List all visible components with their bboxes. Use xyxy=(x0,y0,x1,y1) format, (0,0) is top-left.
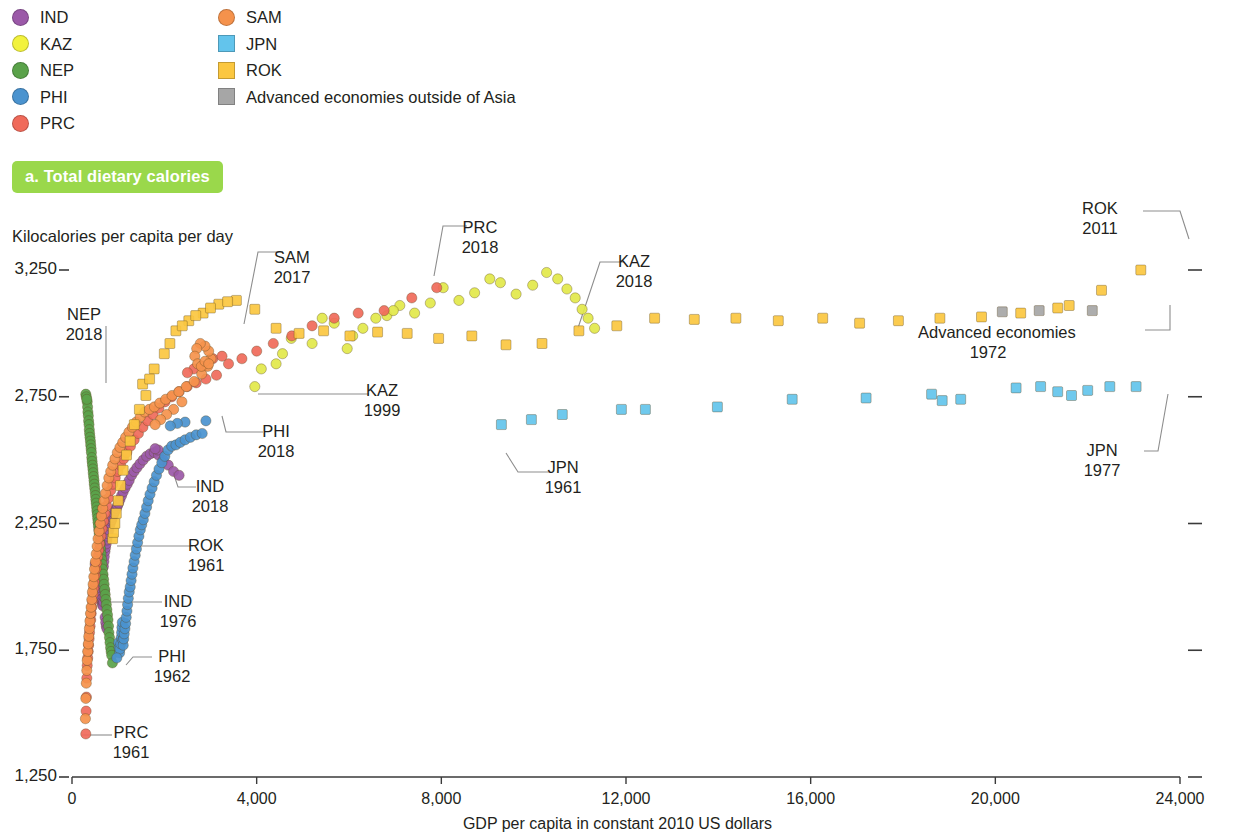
data-point[interactable] xyxy=(557,410,567,420)
data-point[interactable] xyxy=(937,396,947,406)
data-point[interactable] xyxy=(165,339,175,349)
data-point[interactable] xyxy=(454,295,464,305)
data-point[interactable] xyxy=(583,313,593,323)
data-point[interactable] xyxy=(342,344,352,354)
data-point[interactable] xyxy=(574,326,584,336)
data-point[interactable] xyxy=(855,318,865,328)
data-point[interactable] xyxy=(467,331,477,341)
data-point[interactable] xyxy=(294,328,304,338)
data-point[interactable] xyxy=(329,313,339,323)
data-point[interactable] xyxy=(470,288,480,298)
data-point[interactable] xyxy=(110,519,120,529)
data-point[interactable] xyxy=(134,404,144,414)
data-point[interactable] xyxy=(712,402,722,412)
data-point[interactable] xyxy=(537,339,547,349)
data-point[interactable] xyxy=(125,436,135,446)
data-point[interactable] xyxy=(1011,383,1021,393)
data-point[interactable] xyxy=(277,349,287,359)
data-point[interactable] xyxy=(1053,303,1063,313)
data-point[interactable] xyxy=(358,323,368,333)
data-point[interactable] xyxy=(425,298,435,308)
data-point[interactable] xyxy=(410,308,420,318)
data-point[interactable] xyxy=(145,374,155,384)
data-point[interactable] xyxy=(388,306,398,316)
data-point[interactable] xyxy=(345,331,355,341)
data-point[interactable] xyxy=(650,313,660,323)
data-point[interactable] xyxy=(511,289,521,299)
data-point[interactable] xyxy=(237,354,247,364)
data-point[interactable] xyxy=(371,313,381,323)
data-point[interactable] xyxy=(150,444,160,454)
data-point[interactable] xyxy=(81,678,91,688)
data-point[interactable] xyxy=(818,313,828,323)
data-point[interactable] xyxy=(731,313,741,323)
data-point[interactable] xyxy=(307,321,317,331)
data-point[interactable] xyxy=(1067,391,1077,401)
data-point[interactable] xyxy=(1016,308,1026,318)
data-point[interactable] xyxy=(773,316,783,326)
data-point[interactable] xyxy=(150,420,160,430)
data-point[interactable] xyxy=(1131,382,1141,392)
data-point[interactable] xyxy=(612,321,622,331)
data-point[interactable] xyxy=(1034,306,1044,316)
data-point[interactable] xyxy=(640,404,650,414)
data-point[interactable] xyxy=(223,297,233,307)
data-point[interactable] xyxy=(204,359,214,369)
data-point[interactable] xyxy=(252,346,262,356)
data-point[interactable] xyxy=(1036,382,1046,392)
data-point[interactable] xyxy=(689,314,699,324)
data-point[interactable] xyxy=(407,293,417,303)
data-point[interactable] xyxy=(434,333,444,343)
data-point[interactable] xyxy=(271,359,281,369)
data-point[interactable] xyxy=(141,391,151,401)
data-point[interactable] xyxy=(159,349,169,359)
data-point[interactable] xyxy=(402,328,412,338)
data-point[interactable] xyxy=(496,420,506,430)
data-point[interactable] xyxy=(149,364,159,374)
data-point[interactable] xyxy=(977,312,987,322)
data-point[interactable] xyxy=(191,311,201,321)
data-point[interactable] xyxy=(206,303,216,313)
data-point[interactable] xyxy=(542,267,552,277)
data-point[interactable] xyxy=(268,338,278,348)
data-point[interactable] xyxy=(861,393,871,403)
data-point[interactable] xyxy=(177,321,187,331)
data-point[interactable] xyxy=(1083,385,1093,395)
data-point[interactable] xyxy=(189,376,199,386)
data-point[interactable] xyxy=(526,415,536,425)
data-point[interactable] xyxy=(373,327,383,337)
data-point[interactable] xyxy=(956,394,966,404)
data-point[interactable] xyxy=(1053,387,1063,397)
data-point[interactable] xyxy=(1097,285,1107,295)
data-point[interactable] xyxy=(82,394,92,404)
data-point[interactable] xyxy=(1087,306,1097,316)
data-point[interactable] xyxy=(787,394,797,404)
data-point[interactable] xyxy=(528,280,538,290)
data-point[interactable] xyxy=(1136,265,1146,275)
data-point[interactable] xyxy=(256,364,266,374)
data-point[interactable] xyxy=(109,527,119,537)
data-point[interactable] xyxy=(1064,301,1074,311)
data-point[interactable] xyxy=(177,397,187,407)
data-point[interactable] xyxy=(379,306,389,316)
data-point[interactable] xyxy=(590,323,600,333)
data-point[interactable] xyxy=(616,404,626,414)
data-point[interactable] xyxy=(485,274,495,284)
data-point[interactable] xyxy=(113,496,123,506)
data-point[interactable] xyxy=(250,382,260,392)
data-point[interactable] xyxy=(211,370,221,380)
data-point[interactable] xyxy=(307,338,317,348)
data-point[interactable] xyxy=(319,326,329,336)
data-point[interactable] xyxy=(116,481,126,491)
data-point[interactable] xyxy=(935,313,945,323)
data-point[interactable] xyxy=(997,307,1007,317)
data-point[interactable] xyxy=(893,316,903,326)
data-point[interactable] xyxy=(250,304,260,314)
data-point[interactable] xyxy=(129,420,139,430)
data-point[interactable] xyxy=(111,508,121,518)
data-point[interactable] xyxy=(81,693,91,703)
data-point[interactable] xyxy=(577,304,587,314)
data-point[interactable] xyxy=(495,278,505,288)
data-point[interactable] xyxy=(165,421,175,431)
data-point[interactable] xyxy=(1105,382,1115,392)
